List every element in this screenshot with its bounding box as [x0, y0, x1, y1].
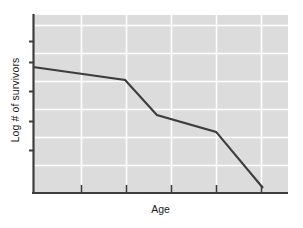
y-axis-label: Log # of survivors — [9, 58, 21, 143]
survivorship-curve-figure: Log # of survivors Age — [0, 0, 303, 228]
x-axis-label: Age — [33, 203, 288, 215]
y-axis-label-container: Log # of survivors — [0, 0, 30, 200]
chart-canvas — [0, 0, 303, 228]
